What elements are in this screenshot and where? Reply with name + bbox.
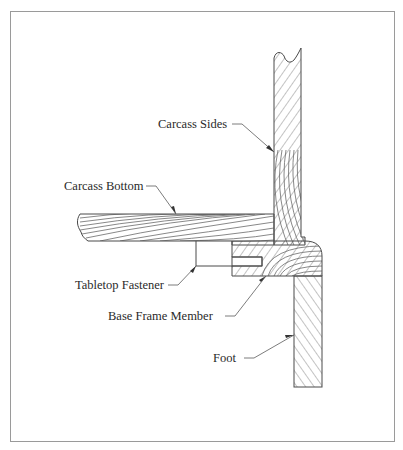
carcass-bottom-board: [77, 213, 274, 245]
leader-foot: [244, 335, 294, 358]
arrowhead-icon: [171, 206, 176, 214]
joint-cross-section: [0, 0, 403, 450]
label-foot: Foot: [213, 351, 236, 365]
base-frame-member: [225, 235, 325, 280]
label-base-frame-member: Base Frame Member: [108, 309, 213, 323]
leader-carcass-bottom: [146, 186, 176, 214]
leader-base-frame-member: [225, 276, 266, 316]
label-carcass-sides: Carcass Sides: [158, 117, 227, 131]
carcass-side-board: [260, 40, 320, 260]
label-tabletop-fastener: Tabletop Fastener: [75, 278, 164, 292]
label-carcass-bottom: Carcass Bottom: [64, 179, 144, 193]
foot-board: [294, 276, 322, 387]
leader-tabletop-fastener: [168, 266, 196, 285]
